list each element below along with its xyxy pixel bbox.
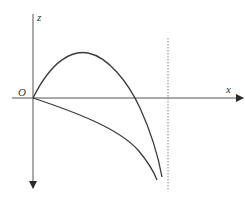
- trajectory-diagram: z x O: [0, 0, 245, 202]
- origin-label: O: [18, 86, 26, 98]
- x-axis-label: x: [225, 83, 231, 95]
- upper-trajectory-curve: [33, 53, 162, 177]
- z-axis-label: z: [36, 11, 42, 23]
- lower-trajectory-curve: [33, 98, 157, 180]
